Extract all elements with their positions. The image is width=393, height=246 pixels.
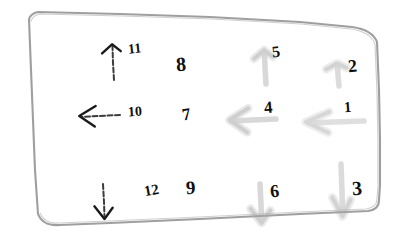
sketch-canvas: 118521074112963: [0, 0, 393, 246]
arrow-down-icon: [88, 180, 120, 224]
number-label-10: 10: [128, 105, 143, 120]
arrow-up-icon: [96, 38, 130, 84]
number-label-7: 7: [181, 105, 192, 123]
number-label-11: 11: [127, 41, 142, 56]
number-label-2: 2: [347, 57, 358, 76]
number-label-12: 12: [143, 182, 160, 199]
number-label-3: 3: [351, 178, 362, 199]
number-label-1: 1: [343, 100, 352, 115]
arrow-left-icon: [74, 100, 124, 132]
number-label-4: 4: [263, 99, 273, 117]
number-label-9: 9: [186, 178, 196, 197]
number-label-6: 6: [269, 182, 280, 201]
arrow-left-icon: [300, 106, 368, 138]
number-label-8: 8: [175, 54, 186, 75]
